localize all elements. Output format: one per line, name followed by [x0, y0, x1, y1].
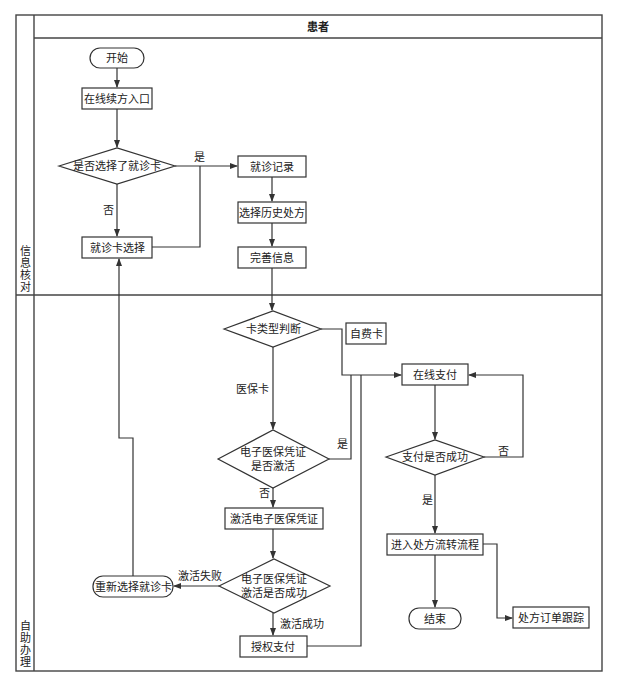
node-enter-flow: 进入处方流转流程: [387, 534, 483, 555]
edge-label-activate-success: 激活成功: [280, 617, 324, 631]
edge-label-pay-no: 否: [498, 445, 509, 458]
svg-text:授权支付: 授权支付: [251, 640, 295, 654]
header-title: 患者: [307, 20, 329, 34]
svg-text:是否激活: 是否激活: [251, 459, 295, 473]
node-order-track: 处方订单跟踪: [513, 607, 589, 628]
node-card-select: 就诊卡选择: [82, 237, 152, 258]
node-online-pay: 在线支付: [402, 364, 468, 385]
svg-text:完善信息: 完善信息: [250, 251, 294, 265]
svg-text:开始: 开始: [106, 51, 128, 65]
svg-text:激活是否成功: 激活是否成功: [241, 586, 307, 600]
svg-text:卡类型判断: 卡类型判断: [246, 322, 301, 336]
svg-text:自费卡: 自费卡: [350, 328, 383, 341]
swimlane-flowchart: 患者 信 息 核 对 自 助 办 理 开始 在线续方入口 是否选择了就诊卡 就诊…: [0, 0, 617, 682]
swimlane-frame: [16, 15, 602, 671]
node-activate-ehic: 激活电子医保凭证: [225, 508, 323, 529]
svg-text:电子医保凭证: 电子医保凭证: [241, 572, 307, 586]
node-entry: 在线续方入口: [82, 88, 152, 109]
svg-text:电子医保凭证: 电子医保凭证: [240, 445, 306, 459]
svg-text:在线支付: 在线支付: [413, 368, 457, 382]
edge-label-yes-activated: 是: [337, 438, 348, 451]
edge-label-yes-card-selected: 是: [194, 151, 205, 164]
lane-label-self-service: 自 助 办 理: [20, 620, 31, 669]
node-reselect-card: 重新选择就诊卡: [93, 576, 173, 597]
edge-label-pay-yes: 是: [422, 494, 433, 507]
node-select-history: 选择历史处方: [238, 202, 306, 223]
svg-text:支付是否成功: 支付是否成功: [402, 451, 468, 464]
svg-text:是否选择了就诊卡: 是否选择了就诊卡: [73, 159, 161, 173]
svg-text:就诊卡选择: 就诊卡选择: [90, 241, 145, 255]
edge-label-no-card-selected: 否: [103, 204, 114, 217]
connectors: [117, 68, 523, 646]
svg-text:息: 息: [20, 256, 31, 270]
svg-text:重新选择就诊卡: 重新选择就诊卡: [95, 580, 172, 594]
svg-text:激活电子医保凭证: 激活电子医保凭证: [230, 512, 318, 526]
svg-text:核: 核: [20, 268, 31, 282]
svg-text:进入处方流转流程: 进入处方流转流程: [391, 538, 479, 552]
node-end: 结束: [409, 608, 461, 629]
decision-card-selected: 是否选择了就诊卡: [59, 148, 175, 184]
svg-text:助: 助: [20, 631, 31, 645]
svg-text:处方订单跟踪: 处方订单跟踪: [518, 611, 584, 625]
lane-label-info-check: 信 息 核 对: [20, 245, 31, 294]
edge-label-medical-card: 医保卡: [236, 382, 269, 396]
edge-label-activate-fail: 激活失败: [178, 569, 222, 583]
svg-text:对: 对: [20, 280, 31, 294]
node-complete-info: 完善信息: [238, 247, 306, 268]
svg-text:理: 理: [20, 656, 31, 669]
node-authorize-pay: 授权支付: [240, 636, 307, 657]
node-visit-record: 就诊记录: [238, 156, 306, 177]
svg-text:结束: 结束: [424, 613, 446, 626]
svg-text:选择历史处方: 选择历史处方: [239, 206, 305, 220]
node-self-pay-card: 自费卡: [346, 323, 386, 344]
edge-label-no-activated: 否: [259, 487, 270, 500]
decision-card-type: 卡类型判断: [224, 311, 321, 347]
decision-ehic-activated: 电子医保凭证 是否激活: [218, 430, 329, 488]
svg-text:在线续方入口: 在线续方入口: [84, 92, 150, 106]
decision-activate-success: 电子医保凭证 激活是否成功: [219, 559, 330, 613]
node-start: 开始: [90, 48, 144, 68]
decision-pay-success: 支付是否成功: [386, 440, 484, 475]
svg-text:就诊记录: 就诊记录: [250, 160, 294, 174]
